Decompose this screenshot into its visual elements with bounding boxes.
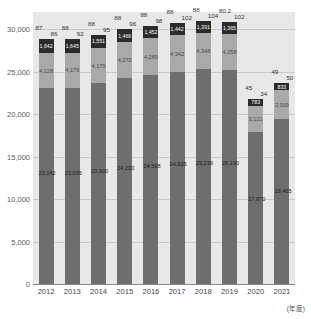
- bar-segment-base[interactable]: 19,465: [274, 119, 289, 284]
- bar-segment-top[interactable]: 1,466: [117, 29, 132, 41]
- bar-segment-mid[interactable]: 4,176: [65, 53, 80, 88]
- bar-segment-base[interactable]: 25,239: [196, 69, 211, 284]
- bar-segment-base[interactable]: 24,598: [143, 75, 158, 284]
- bar-value-mid: 4,258: [222, 49, 237, 55]
- annotation-lower: 92: [77, 30, 84, 37]
- bar-segment-top[interactable]: 833: [274, 83, 289, 90]
- bar-group[interactable]: 19,4653,309833: [274, 12, 289, 284]
- bar-value-base: 24,925: [170, 161, 185, 167]
- bar-segment-top[interactable]: 1,645: [65, 39, 80, 53]
- annotation-lower: 102: [182, 14, 192, 21]
- bar-value-base: 19,465: [274, 188, 289, 194]
- annotation-upper: 88: [114, 14, 121, 21]
- bar-value-mid: 4,289: [143, 54, 158, 60]
- bar-value-top: 1,645: [65, 43, 80, 49]
- bar-segment-base[interactable]: 25,190: [222, 70, 237, 284]
- bar-segment-mid[interactable]: 4,289: [143, 38, 158, 74]
- bar-value-top: 1,551: [91, 38, 106, 44]
- bar-segment-top[interactable]: 1,391: [196, 21, 211, 33]
- bar-value-mid: 4,270: [117, 57, 132, 63]
- bar-group[interactable]: 23,6004,1751,551: [91, 12, 106, 284]
- bar-value-base: 23,035: [65, 170, 80, 176]
- annotation-lower: 34: [260, 90, 267, 97]
- annotation-upper: 88: [88, 20, 95, 27]
- bar-value-base: 25,190: [222, 160, 237, 166]
- bar-value-top: 1,391: [196, 24, 211, 30]
- bar-segment-mid[interactable]: 4,270: [117, 42, 132, 78]
- x-axis-tick-label: 2019: [216, 287, 242, 296]
- bar-value-mid: 3,309: [274, 102, 289, 108]
- bar-segment-top[interactable]: 1,551: [91, 35, 106, 48]
- bar-group[interactable]: 23,0424,1281,642: [39, 12, 54, 284]
- bar-group[interactable]: 25,1904,2581,365: [222, 12, 237, 284]
- bar-value-base: 25,239: [196, 160, 211, 166]
- bar-segment-top[interactable]: 1,642: [39, 39, 54, 53]
- bar-value-mid: 3,121: [248, 116, 263, 122]
- bar-segment-base[interactable]: 24,230: [117, 78, 132, 284]
- bar-segment-top[interactable]: 1,442: [170, 23, 185, 35]
- annotation-upper: 87: [36, 24, 43, 31]
- bar-group[interactable]: 17,8703,121783: [248, 12, 263, 284]
- x-axis-tick-label: 2021: [269, 287, 295, 296]
- annotation-upper: 45: [245, 84, 252, 91]
- bar-value-top: 1,442: [170, 26, 185, 32]
- bar-value-base: 17,870: [248, 196, 263, 202]
- bar-segment-base[interactable]: 23,035: [65, 88, 80, 284]
- bar-value-top: 1,365: [222, 25, 237, 31]
- bar-value-mid: 4,176: [65, 67, 80, 73]
- bar-segment-base[interactable]: 24,925: [170, 72, 185, 284]
- annotation-lower: 102: [234, 13, 244, 20]
- annotation-upper: 49: [271, 68, 278, 75]
- bar-segment-mid[interactable]: 4,258: [222, 34, 237, 70]
- bar-value-base: 24,230: [117, 165, 132, 171]
- bar-value-top: 833: [274, 84, 289, 90]
- bars-container: 23,0424,1281,642878623,0354,1761,6458892…: [0, 0, 311, 319]
- bar-value-base: 23,042: [39, 170, 54, 176]
- bar-segment-base[interactable]: 23,600: [91, 83, 106, 284]
- bar-group[interactable]: 24,2304,2701,466: [117, 12, 132, 284]
- bar-segment-mid[interactable]: 3,309: [274, 90, 289, 118]
- x-axis-tick-label: 2013: [59, 287, 85, 296]
- bar-value-mid: 4,128: [39, 68, 54, 74]
- x-axis-tick-label: 2016: [138, 287, 164, 296]
- bar-segment-mid[interactable]: 3,121: [248, 106, 263, 133]
- bar-segment-mid[interactable]: 4,348: [196, 33, 211, 70]
- bar-segment-top[interactable]: 1,365: [222, 22, 237, 34]
- bar-group[interactable]: 24,5984,2891,452: [143, 12, 158, 284]
- annotation-lower: 96: [129, 20, 136, 27]
- bar-segment-base[interactable]: 23,042: [39, 88, 54, 284]
- bar-value-base: 24,598: [143, 163, 158, 169]
- bar-value-top: 1,452: [143, 29, 158, 35]
- annotation-upper: 88: [193, 6, 200, 13]
- annotation-lower: 98: [155, 17, 162, 24]
- x-axis-tick-label: 2018: [190, 287, 216, 296]
- annotation-lower: 95: [103, 26, 110, 33]
- x-axis-unit-label: (年度): [287, 303, 305, 313]
- bar-segment-mid[interactable]: 4,175: [91, 48, 106, 83]
- annotation-lower: 50: [286, 74, 293, 81]
- x-axis-tick-label: 2015: [112, 287, 138, 296]
- bar-group[interactable]: 23,0354,1761,645: [65, 12, 80, 284]
- bar-segment-mid[interactable]: 4,342: [170, 35, 185, 72]
- bar-segment-top[interactable]: 1,452: [143, 26, 158, 38]
- bar-value-top: 783: [248, 99, 263, 105]
- stacked-bar-chart: 05,00010,00015,00020,00025,00030,000 23,…: [0, 0, 311, 319]
- x-axis-tick-label: 2020: [243, 287, 269, 296]
- bar-segment-top[interactable]: 783: [248, 99, 263, 106]
- annotation-upper: 88: [140, 11, 147, 18]
- bar-value-top: 1,466: [117, 33, 132, 39]
- bar-value-mid: 4,342: [170, 51, 185, 57]
- annotation-upper: 88: [167, 8, 174, 15]
- bar-value-mid: 4,348: [196, 48, 211, 54]
- bar-group[interactable]: 24,9254,3421,442: [170, 12, 185, 284]
- bar-segment-mid[interactable]: 4,128: [39, 53, 54, 88]
- bar-value-mid: 4,175: [91, 63, 106, 69]
- bar-group[interactable]: 25,2394,3481,391: [196, 12, 211, 284]
- x-axis-tick-label: 2017: [164, 287, 190, 296]
- bar-value-top: 1,642: [39, 43, 54, 49]
- annotation-lower: 104: [208, 12, 218, 19]
- annotation-upper: 80.2: [219, 7, 231, 14]
- bar-segment-base[interactable]: 17,870: [248, 132, 263, 284]
- x-axis-tick-label: 2012: [33, 287, 59, 296]
- x-axis-tick-label: 2014: [85, 287, 111, 296]
